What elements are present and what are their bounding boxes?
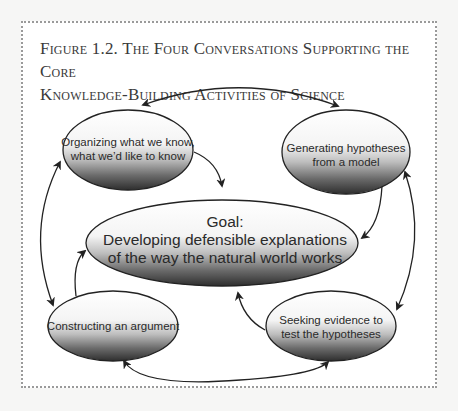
organizing-label-line-2: what we’d like to know <box>61 149 195 163</box>
goal-label-line-2: Developing defensible explanations <box>103 231 347 249</box>
cycle-diagram <box>0 0 458 411</box>
arrow-generating-seeking <box>397 172 415 309</box>
arrow-organizing-to-goal <box>194 152 222 186</box>
generating-label: Generating hypotheses from a model <box>287 141 406 169</box>
constructing-label: Constructing an argument <box>47 319 179 333</box>
goal-label-line-1: Goal: <box>103 213 347 231</box>
organizing-label-line-1: Organizing what we know, <box>61 135 195 149</box>
seeking-label-line-2: test the hypotheses <box>279 327 383 341</box>
seeking-label: Seeking evidence to test the hypotheses <box>279 313 383 341</box>
arrow-generating-to-goal <box>362 186 382 238</box>
organizing-label: Organizing what we know, what we’d like … <box>61 135 195 163</box>
arrow-organizing-generating <box>143 88 338 106</box>
generating-label-line-2: from a model <box>287 155 406 169</box>
arrow-constructing-to-goal <box>75 251 85 296</box>
generating-label-line-1: Generating hypotheses <box>287 141 406 155</box>
constructing-label-line-1: Constructing an argument <box>47 319 179 333</box>
arrow-organizing-constructing <box>41 162 60 305</box>
arrow-seeking-to-goal <box>238 293 265 330</box>
arrow-constructing-seeking <box>124 361 328 382</box>
goal-label-line-3: of the way the natural world works <box>103 249 347 267</box>
seeking-label-line-1: Seeking evidence to <box>279 313 383 327</box>
goal-label: Goal: Developing defensible explanations… <box>103 213 347 267</box>
